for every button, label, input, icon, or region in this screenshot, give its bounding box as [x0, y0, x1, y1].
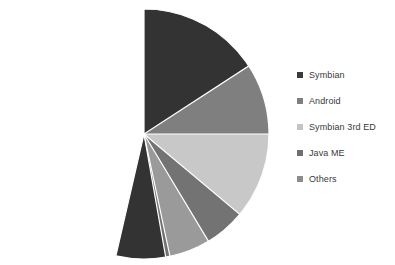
chart-legend: Symbian Android Symbian 3rd ED Java ME O…	[297, 62, 395, 192]
legend-label: Android	[309, 88, 341, 114]
pie-svg	[18, 8, 270, 260]
legend-swatch-icon	[297, 176, 303, 182]
legend-label: Others	[309, 166, 337, 192]
pie-plot-area	[18, 8, 270, 260]
legend-item-java-me[interactable]: Java ME	[297, 140, 395, 166]
pie-chart: Symbian Android Symbian 3rd ED Java ME O…	[0, 0, 395, 265]
legend-item-android[interactable]: Android	[297, 88, 395, 114]
legend-item-symbian[interactable]: Symbian	[297, 62, 395, 88]
legend-item-others[interactable]: Others	[297, 166, 395, 192]
legend-swatch-icon	[297, 150, 303, 156]
legend-swatch-icon	[297, 72, 303, 78]
legend-label: Symbian 3rd ED	[309, 114, 376, 140]
legend-label: Java ME	[309, 140, 345, 166]
legend-label: Symbian	[309, 62, 345, 88]
legend-swatch-icon	[297, 124, 303, 130]
legend-item-symbian-3rd-ed[interactable]: Symbian 3rd ED	[297, 114, 395, 140]
pie-slice-group	[116, 9, 269, 259]
legend-swatch-icon	[297, 98, 303, 104]
